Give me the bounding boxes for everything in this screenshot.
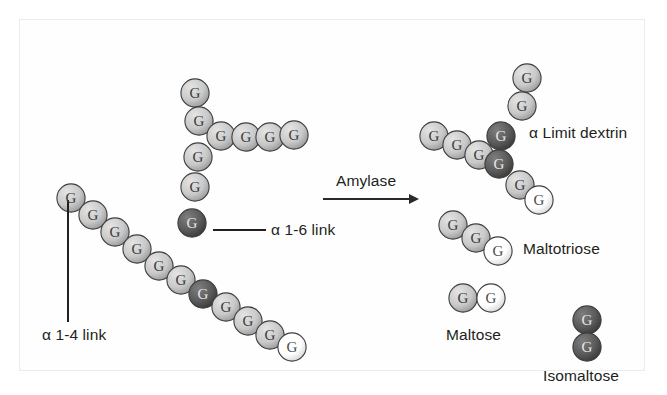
maltotriose-3-reducing-end: G (483, 236, 513, 266)
glucose-unit-label: G (429, 129, 440, 144)
substrate-branch-point-upper: G (177, 208, 207, 238)
maltose-label: Maltose (446, 326, 501, 344)
glucose-unit-label: G (471, 231, 482, 246)
glucose-unit-label: G (154, 259, 165, 274)
glucose-unit-label: G (517, 99, 528, 114)
alpha-1-4-link-label: α 1-4 link (42, 326, 106, 344)
glucose-unit-label: G (241, 130, 252, 145)
isomaltose-1: G (572, 305, 602, 335)
maltose-2-reducing-end: G (476, 283, 506, 313)
dextrin-low-2-reducing-end: G (524, 185, 554, 215)
substrate-main-11-reducing-end: G (277, 332, 307, 362)
glucose-unit-label: G (494, 157, 505, 172)
glucose-unit-label: G (216, 129, 227, 144)
glucose-unit-label: G (265, 328, 276, 343)
alpha-limit-dextrin-label: α Limit dextrin (529, 124, 627, 142)
substrate-col-4: G (180, 172, 210, 202)
glucose-unit-label: G (190, 86, 201, 101)
reaction-arrow-line (323, 198, 411, 200)
glucose-unit-label: G (474, 148, 485, 163)
glucose-unit-label: G (522, 71, 533, 86)
glucose-unit-label: G (582, 340, 593, 355)
glucose-unit-label: G (110, 225, 121, 240)
glucose-unit-label: G (194, 114, 205, 129)
glucose-unit-label: G (515, 178, 526, 193)
glucose-unit-label: G (66, 191, 77, 206)
glucose-unit-label: G (88, 208, 99, 223)
glucose-unit-label: G (265, 130, 276, 145)
maltotriose-label: Maltotriose (523, 240, 600, 258)
reaction-arrow-head (409, 194, 419, 204)
glucose-unit-label: G (486, 291, 497, 306)
glucose-unit-label: G (493, 244, 504, 259)
glucose-unit-label: G (176, 273, 187, 288)
glucose-unit-label: G (534, 193, 545, 208)
maltose-1: G (448, 283, 478, 313)
glucose-unit-label: G (190, 180, 201, 195)
glucose-unit-label: G (289, 128, 300, 143)
figure-frame: GGGGGGGGGGGGGGGGGGGG α 1-4 link α 1-6 li… (19, 19, 645, 371)
alpha-1-6-link-label: α 1-6 link (271, 221, 335, 239)
amylase-enzyme-label: Amylase (336, 172, 396, 190)
alpha-1-6-leader-line (213, 229, 266, 231)
substrate-arm-4: G (279, 120, 309, 150)
isomaltose-2: G (572, 332, 602, 362)
dextrin-branch-upper: G (486, 121, 516, 151)
dextrin-top-2: G (512, 63, 542, 93)
glucose-unit-label: G (582, 313, 593, 328)
substrate-col-1: G (180, 78, 210, 108)
glucose-unit-label: G (448, 218, 459, 233)
glucose-unit-label: G (187, 216, 198, 231)
dextrin-top-1: G (507, 91, 537, 121)
isomaltose-label: Isomaltose (543, 367, 619, 385)
glucose-unit-label: G (287, 340, 298, 355)
glucose-unit-label: G (198, 287, 209, 302)
glucose-unit-label: G (221, 300, 232, 315)
glucose-unit-label: G (193, 150, 204, 165)
glucose-unit-label: G (496, 129, 507, 144)
glucose-unit-label: G (243, 314, 254, 329)
glucose-unit-label: G (132, 242, 143, 257)
glucose-unit-label: G (458, 291, 469, 306)
figure-amylase-digestion: GGGGGGGGGGGGGGGGGGGG α 1-4 link α 1-6 li… (0, 0, 667, 395)
glucose-unit-label: G (452, 138, 463, 153)
alpha-1-4-leader-line (67, 200, 69, 322)
